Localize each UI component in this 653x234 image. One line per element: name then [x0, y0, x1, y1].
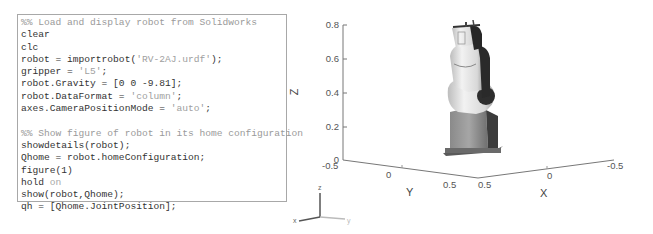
x-tick-label: 0	[547, 170, 552, 181]
code-line[interactable]: qh = [Qhome.JointPosition];	[21, 201, 286, 213]
code-line[interactable]: robot.Gravity = [0 0 -9.81];	[21, 78, 286, 90]
triad-z-label: z	[318, 184, 322, 191]
x-tick-label: -0.5	[607, 160, 623, 171]
code-token-comment: %% Show figure of robot in its home conf…	[21, 128, 303, 139]
code-line[interactable]	[21, 115, 286, 127]
code-line[interactable]: clc	[21, 42, 286, 54]
code-editor[interactable]: %% Load and display robot from Solidwork…	[17, 14, 287, 202]
code-line[interactable]: hold on	[21, 177, 286, 189]
code-token-string: 'column'	[130, 91, 176, 102]
code-token-code: robot.DataFormat =	[21, 91, 130, 102]
triad-y-label: y	[347, 217, 351, 224]
code-token-code: clear	[21, 29, 50, 40]
code-token-code: showdetails(robot);	[21, 140, 130, 151]
code-token-keyword: on	[50, 177, 62, 188]
y-axis	[343, 160, 478, 178]
z-axis	[343, 25, 347, 160]
z-tick-label: 0.6	[326, 53, 339, 64]
z-axis-label: Z	[288, 89, 300, 96]
y-tick-label: 0.5	[443, 179, 456, 190]
code-line[interactable]: %% Show figure of robot in its home conf…	[21, 128, 286, 140]
code-token-code: ;	[102, 66, 108, 77]
code-token-code: clc	[21, 42, 38, 53]
orientation-triad	[299, 193, 345, 221]
x-tick-label: 0.5	[478, 179, 491, 190]
code-token-code: axes.CameraPositionMode =	[21, 103, 171, 114]
code-token-code: figure(1)	[21, 165, 73, 176]
code-token-code: robot.Gravity = [0 0 -9.81];	[21, 78, 182, 89]
axes-3d	[290, 0, 653, 234]
code-token-code: gripper =	[21, 66, 79, 77]
code-line[interactable]: show(robot,Qhome);	[21, 189, 286, 201]
code-token-code: );	[211, 54, 223, 65]
code-token-string: 'RV-2AJ.urdf'	[136, 54, 211, 65]
code-token-code: hold	[21, 177, 50, 188]
code-line[interactable]: showdetails(robot);	[21, 140, 286, 152]
x-axis-label: X	[540, 187, 547, 199]
code-line[interactable]: clear	[21, 29, 286, 41]
z-tick-label: 0.2	[326, 121, 339, 132]
code-token-code: robot = importrobot(	[21, 54, 136, 65]
robot-figure[interactable]: 0.80.60.40.20 Z -0.500.5 Y 0.50-0.5 X z …	[290, 0, 653, 234]
code-token-comment: %% Load and display robot from Solidwork…	[21, 17, 257, 28]
code-line[interactable]: robot = importrobot('RV-2AJ.urdf');	[21, 54, 286, 66]
z-tick-label: 0.4	[326, 87, 339, 98]
code-line[interactable]: axes.CameraPositionMode = 'auto';	[21, 103, 286, 115]
robot-model	[443, 20, 503, 156]
code-token-code: ;	[176, 91, 182, 102]
code-line[interactable]: robot.DataFormat = 'column';	[21, 91, 286, 103]
code-token-code: Qhome = robot.homeConfiguration;	[21, 152, 205, 163]
z-tick-label: 0.8	[326, 19, 339, 30]
triad-x-label: x	[293, 217, 297, 224]
y-tick-label: 0	[386, 169, 391, 180]
y-tick-label: -0.5	[322, 160, 338, 171]
x-axis	[478, 160, 614, 178]
code-line[interactable]: Qhome = robot.homeConfiguration;	[21, 152, 286, 164]
code-token-string: 'L5'	[79, 66, 102, 77]
y-axis-label: Y	[406, 186, 413, 198]
code-token-code: show(robot,Qhome);	[21, 189, 125, 200]
code-line[interactable]: %% Load and display robot from Solidwork…	[21, 17, 286, 29]
code-line[interactable]: gripper = 'L5';	[21, 66, 286, 78]
code-token-string: 'auto'	[171, 103, 206, 114]
code-token-code: qh = [Qhome.JointPosition];	[21, 201, 176, 212]
code-token-code: ;	[205, 103, 211, 114]
code-line[interactable]: figure(1)	[21, 165, 286, 177]
